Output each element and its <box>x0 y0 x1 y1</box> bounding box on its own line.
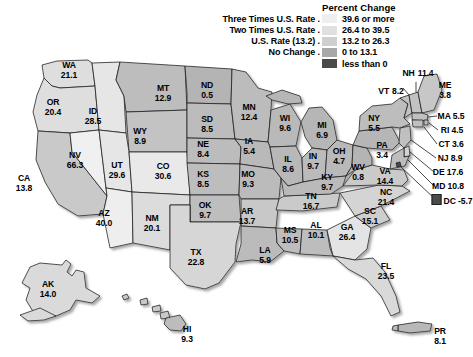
state-HI1 <box>122 294 129 300</box>
map-label-IA: IA5.4 <box>243 137 255 156</box>
map-label-value: 6.9 <box>316 131 328 141</box>
map-label-UT: UT29.6 <box>109 161 125 180</box>
map-label-value: 29.6 <box>109 171 125 181</box>
map-label-DC: DC -5.7 <box>432 194 473 206</box>
map-label-value: 21.4 <box>378 198 394 208</box>
map-label-value: 9.7 <box>307 162 319 172</box>
map-label-WA: WA21.1 <box>61 61 77 80</box>
map-label-text: VT <box>378 86 389 96</box>
legend-range: 0 to 13.1 <box>342 47 377 57</box>
map-label-MO: MO9.3 <box>241 170 255 189</box>
map-label-value: 12.9 <box>155 94 171 104</box>
map-label-CA: CA13.8 <box>16 174 32 193</box>
map-label-HI: HI9.3 <box>181 325 193 344</box>
legend-swatch <box>322 14 337 23</box>
map-label-LA: LA5.9 <box>259 246 271 265</box>
map-label-value: 8.9 <box>133 137 147 147</box>
map-label-value: 20.4 <box>45 108 61 118</box>
map-label-value: 20.1 <box>144 224 160 234</box>
map-label-MT: MT12.9 <box>155 84 171 103</box>
map-label-text: RI 4.5 <box>441 125 463 135</box>
dc-swatch <box>432 194 442 205</box>
map-label-value: 0.5 <box>201 91 213 101</box>
map-label-WY: WY8.9 <box>133 127 147 146</box>
map-label-value: 0.8 <box>351 173 365 183</box>
map-label-value: 30.6 <box>155 172 171 182</box>
map-label-value: 9.6 <box>279 124 291 134</box>
map-label-value: 10.1 <box>308 231 324 241</box>
map-label-MI: MI6.9 <box>316 121 328 140</box>
map-label-ME: ME3.8 <box>439 81 452 100</box>
map-label-OK: OK9.7 <box>199 201 212 220</box>
map-label-ID: ID28.5 <box>85 107 101 126</box>
legend-title: Percent Change <box>322 2 454 13</box>
map-label-value: 23.5 <box>378 272 394 282</box>
state-DE <box>404 146 410 157</box>
map-label-CO: CO30.6 <box>155 162 171 181</box>
legend-range: 39.6 or more <box>342 14 394 24</box>
map-label-NC: NC21.4 <box>378 188 394 207</box>
map-label-VA: VA14.4 <box>377 167 393 186</box>
map-label-value: 5.9 <box>259 256 271 266</box>
state-RI <box>424 120 428 125</box>
state-NY <box>359 98 410 131</box>
state-CT <box>412 120 423 127</box>
state-PR2 <box>392 325 398 331</box>
map-label-value: 8.2 <box>392 86 404 96</box>
map-label-AL: AL10.1 <box>308 221 324 240</box>
state-AK <box>22 260 100 316</box>
legend-row: Three Times U.S. Rate . 39.6 or more <box>214 14 454 25</box>
legend-label: U.S. Rate (13.2) . <box>214 36 322 46</box>
map-label-PR: PR8.1 <box>434 327 446 346</box>
map-label-value: 8.4 <box>197 150 209 160</box>
map-label-value: 66.3 <box>67 161 83 171</box>
map-label-CT: CT 3.6 <box>438 139 463 149</box>
legend: Percent Change Three Times U.S. Rate . 3… <box>214 2 454 69</box>
state-NJ <box>399 126 411 148</box>
map-label-value: 8.1 <box>434 337 446 347</box>
map-label-GA: GA26.4 <box>339 223 355 242</box>
map-label-WI: WI9.6 <box>279 114 291 133</box>
state-MT <box>116 62 187 112</box>
map-label-text: NJ 8.9 <box>438 153 463 163</box>
map-label-value: 8.6 <box>282 165 294 175</box>
map-label-TX: TX22.8 <box>188 248 204 267</box>
map-label-value: 9.3 <box>241 180 255 190</box>
map-label-OR: OR20.4 <box>45 98 61 117</box>
map-label-value: 10.5 <box>282 236 298 246</box>
map-label-MA: MA 5.5 <box>438 111 465 121</box>
map-label-value: 21.1 <box>61 71 77 81</box>
map-label-KY: KY9.7 <box>321 173 333 192</box>
map-label-FL: FL23.5 <box>378 262 394 281</box>
map-label-value: 28.5 <box>85 117 101 127</box>
legend-swatch <box>322 37 337 46</box>
legend-label: No Change . <box>214 47 322 57</box>
map-label-OH: OH4.7 <box>333 147 346 166</box>
map-label-text: NH <box>402 68 414 78</box>
map-label-WV: WV0.8 <box>351 163 365 182</box>
map-label-SD: SD8.5 <box>201 115 213 134</box>
map-label-text: MA 5.5 <box>438 111 465 121</box>
map-label-NY: NY5.5 <box>368 114 380 133</box>
legend-swatch <box>322 26 337 35</box>
map-label-value: 11.4 <box>418 68 434 78</box>
map-label-AR: AR13.7 <box>239 207 255 226</box>
map-label-value: 16.7 <box>303 202 319 212</box>
map-label-TN: TN16.7 <box>303 192 319 211</box>
map-label-value: 8.5 <box>197 180 209 190</box>
map-label-text: CT 3.6 <box>438 139 463 149</box>
state-HI2 <box>140 298 148 305</box>
map-label-value: 13.7 <box>239 217 255 227</box>
map-label-RI: RI 4.5 <box>441 125 463 135</box>
state-HI3 <box>152 305 161 312</box>
map-label-value: 5.4 <box>243 147 255 157</box>
map-label-VT: VT8.2 <box>378 86 403 96</box>
map-label-IL: IL8.6 <box>282 155 294 174</box>
map-label-AK: AK14.0 <box>40 280 56 299</box>
map-label-NV: NV66.3 <box>67 151 83 170</box>
legend-label: Two Times U.S. Rate . <box>214 25 322 35</box>
legend-range: less than 0 <box>342 59 387 69</box>
map-label-NJ: NJ 8.9 <box>438 153 463 163</box>
map-label-IN: IN9.7 <box>307 152 319 171</box>
map-label-MS: MS10.5 <box>282 226 298 245</box>
